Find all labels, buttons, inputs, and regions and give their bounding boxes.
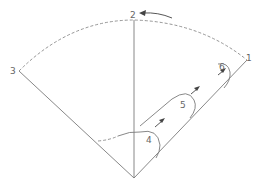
label-point-1: 1: [246, 53, 252, 63]
label-point-2: 2: [130, 10, 136, 20]
entry-dashed-curve: [98, 136, 118, 141]
label-point-6: 6: [219, 62, 225, 72]
rotation-arrow: [143, 13, 172, 18]
label-point-3: 3: [10, 66, 16, 76]
label-point-4: 4: [146, 135, 152, 145]
entry-curve: [118, 132, 140, 136]
connector-4-5: [140, 99, 172, 126]
outer-dashed-arc: [19, 20, 247, 71]
radius-line-3: [19, 71, 134, 178]
diagram-canvas: 1 2 3 4 5 6: [0, 0, 259, 182]
rotation-arrow-head-icon: [139, 10, 146, 16]
label-point-5: 5: [180, 100, 186, 110]
